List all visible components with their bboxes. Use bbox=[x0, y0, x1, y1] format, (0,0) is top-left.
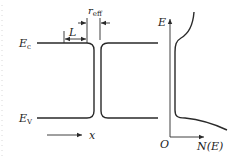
energy-axis-label: E bbox=[157, 16, 166, 29]
ev-label: EV bbox=[18, 112, 33, 126]
x-label: x bbox=[89, 129, 96, 142]
conduction-band-right bbox=[101, 43, 158, 118]
length-label: L bbox=[68, 26, 76, 39]
origin-label: O bbox=[160, 138, 169, 151]
dos-curve bbox=[175, 12, 227, 130]
ec-label: Ec bbox=[18, 37, 31, 51]
conduction-band-left bbox=[37, 43, 94, 118]
reff-label: reff bbox=[88, 5, 103, 18]
dos-axis-label: N(E) bbox=[196, 140, 223, 153]
band-diagram: L reff Ec EV x E O N(E) bbox=[0, 0, 244, 165]
